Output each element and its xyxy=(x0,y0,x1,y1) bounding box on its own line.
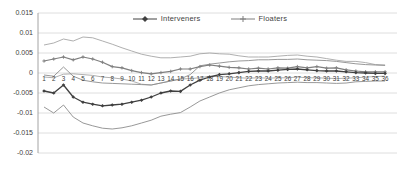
y-tick-label: -0.015 xyxy=(0,129,33,136)
impulse-response-chart: 0.0150.010.0050-0.005-0.01-0.015-0.02 12… xyxy=(0,0,411,175)
marker-diamond xyxy=(149,95,153,99)
marker-diamond xyxy=(169,89,173,93)
marker-diamond xyxy=(130,100,134,104)
marker-diamond xyxy=(42,89,46,93)
marker-diamond xyxy=(257,69,261,73)
y-tick-label: 0.005 xyxy=(0,49,33,56)
marker-diamond xyxy=(237,71,241,75)
y-tick-label: -0.005 xyxy=(0,89,33,96)
marker-diamond xyxy=(110,103,114,107)
marker-diamond xyxy=(325,69,329,73)
marker-diamond xyxy=(91,102,95,106)
y-tick-label: 0 xyxy=(0,69,33,76)
y-tick-label: -0.02 xyxy=(0,149,33,156)
plot-area xyxy=(0,0,411,175)
y-tick-label: 0.015 xyxy=(0,9,33,16)
marker-diamond xyxy=(120,102,124,106)
y-tick-label: 0.01 xyxy=(0,29,33,36)
marker-diamond xyxy=(140,98,144,102)
marker-diamond xyxy=(305,68,309,72)
marker-diamond xyxy=(101,104,105,108)
marker-diamond xyxy=(296,67,300,71)
y-tick-label: -0.01 xyxy=(0,109,33,116)
marker-diamond xyxy=(335,69,339,73)
marker-diamond xyxy=(276,68,280,72)
x-tick-label: 36 xyxy=(380,75,391,82)
marker-diamond xyxy=(315,69,319,73)
marker-diamond xyxy=(266,69,270,73)
marker-diamond xyxy=(159,91,163,95)
